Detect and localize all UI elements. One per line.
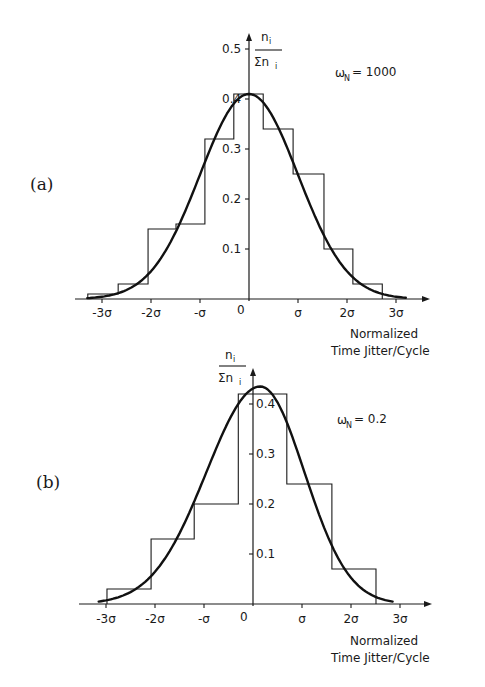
gaussian-fit-curve xyxy=(87,94,406,298)
y-tick-label: 0.1 xyxy=(222,242,241,256)
svg-text:Normalized: Normalized xyxy=(350,634,418,648)
histogram-b xyxy=(107,394,376,604)
fit-curve-a xyxy=(87,94,406,298)
y-axis-a: 0.10.20.30.40.5 xyxy=(222,33,252,301)
y-tick-label: 0.3 xyxy=(222,142,241,156)
chart-a: (a) 0.10.20.30.40.5 -3σ-2σ-σ0σ2σ3σ n i Σ… xyxy=(30,30,430,358)
svg-text:i: i xyxy=(275,62,277,71)
x-label-b: Normalized Time Jitter/Cycle xyxy=(330,634,430,665)
x-tick-label: -3σ xyxy=(96,612,116,626)
svg-text:N: N xyxy=(344,74,350,83)
y-label-numerator-a: n xyxy=(261,30,269,44)
annotation-b: ω N = 0.2 xyxy=(337,412,387,430)
y-axis-arrow-icon xyxy=(250,368,256,376)
x-tick-label: 2σ xyxy=(343,612,359,626)
y-label-b: n i Σn i xyxy=(218,348,246,387)
x-tick-label: 3σ xyxy=(392,612,408,626)
svg-text:Normalized: Normalized xyxy=(350,327,418,341)
y-label-denominator-b: Σn xyxy=(218,371,233,385)
chart-b: (b) 0.10.20.30.4 -3σ-2σ-σ0σ2σ3σ n i Σn i… xyxy=(36,348,432,665)
panel-label-b: (b) xyxy=(36,472,60,492)
x-tick-label: -2σ xyxy=(141,306,161,320)
y-label-a: n i Σn i xyxy=(254,30,282,71)
y-tick-label: 0.2 xyxy=(256,497,275,511)
y-tick-label: 0.4 xyxy=(256,397,275,411)
x-tick-label: 0 xyxy=(237,303,245,317)
y-label-denominator-a: Σn xyxy=(254,55,269,69)
x-tick-label: -σ xyxy=(198,612,210,626)
x-tick-label: -3σ xyxy=(92,306,112,320)
x-tick-label: σ xyxy=(294,306,302,320)
svg-text:N: N xyxy=(346,421,352,430)
svg-text:i: i xyxy=(269,37,271,46)
panel-label-a: (a) xyxy=(30,174,53,194)
svg-text:Time Jitter/Cycle: Time Jitter/Cycle xyxy=(330,651,430,665)
svg-text:i: i xyxy=(239,378,241,387)
x-axis-a: -3σ-2σ-σ0σ2σ3σ xyxy=(75,296,430,320)
svg-text:Time Jitter/Cycle: Time Jitter/Cycle xyxy=(330,344,430,358)
x-tick-label: σ xyxy=(298,612,306,626)
histogram-steps xyxy=(107,394,376,604)
x-axis-arrow-icon xyxy=(422,296,430,302)
x-tick-label: -σ xyxy=(194,306,206,320)
x-axis-b: -3σ-2σ-σ0σ2σ3σ xyxy=(79,601,432,626)
svg-text:i: i xyxy=(233,355,235,364)
x-label-a: Normalized Time Jitter/Cycle xyxy=(330,327,430,358)
y-tick-label: 0.1 xyxy=(256,547,275,561)
x-tick-label: -2σ xyxy=(145,612,165,626)
annotation-a: ω N = 1000 xyxy=(335,65,396,83)
y-axis-b: 0.10.20.30.4 xyxy=(249,368,275,606)
y-axis-arrow-icon xyxy=(246,33,252,41)
x-axis-arrow-icon xyxy=(424,601,432,607)
y-tick-label: 0.2 xyxy=(222,192,241,206)
x-tick-label: 0 xyxy=(240,610,248,624)
y-tick-label: 0.5 xyxy=(222,42,241,56)
x-tick-label: 3σ xyxy=(388,306,404,320)
y-tick-label: 0.3 xyxy=(256,447,275,461)
x-tick-label: 2σ xyxy=(339,306,355,320)
svg-text:= 0.2: = 0.2 xyxy=(354,412,387,426)
svg-text:= 1000: = 1000 xyxy=(352,65,396,79)
y-label-numerator-b: n xyxy=(225,348,233,362)
figure-canvas: (a) 0.10.20.30.40.5 -3σ-2σ-σ0σ2σ3σ n i Σ… xyxy=(0,0,485,687)
